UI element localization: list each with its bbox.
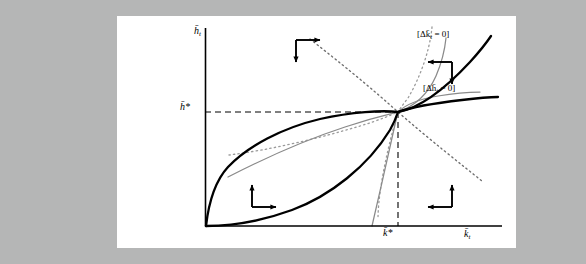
quadrant-arrow-bottom-left: [252, 185, 276, 207]
isocline-delta-h-label-open: [Δh̄: [423, 83, 436, 93]
dashed-guides: [205, 112, 398, 226]
isocline-delta-h-label: [Δh̄t = 0]: [423, 84, 455, 95]
isocline-curves: [206, 36, 498, 226]
isocline-delta-h-curve: [206, 97, 498, 226]
direction-arrows: [252, 40, 452, 207]
figure-root: [Δk̄t = 0] [Δh̄t = 0] h̄t k̄t h̄* k̄*: [0, 0, 586, 264]
quadrant-arrow-top-left: [296, 40, 320, 62]
unstable-arm-dotted: [378, 27, 432, 219]
x-axis-label: k̄t: [464, 229, 470, 241]
quadrant-arrow-bottom-right: [428, 185, 452, 207]
isocline-delta-k-label-open: [Δk̄: [417, 29, 430, 39]
gray-trajectories: [228, 38, 480, 226]
y-axis-label-sub: t: [199, 30, 201, 38]
y-axis-label: h̄t: [194, 26, 201, 38]
y-axis-tick-label: h̄*: [180, 102, 190, 112]
x-axis-label-sub: t: [468, 233, 470, 241]
axes: [205, 28, 502, 227]
x-axis-tick-label: k̄*: [383, 228, 392, 238]
isocline-delta-k-label: [Δk̄t = 0]: [417, 30, 449, 41]
phase-diagram-plot: [0, 0, 586, 264]
isocline-delta-k-label-close: = 0]: [432, 29, 449, 39]
isocline-delta-h-label-close: = 0]: [438, 83, 455, 93]
saddle-path-dotted: [310, 39, 482, 181]
isocline-delta-k-curve: [206, 36, 491, 226]
